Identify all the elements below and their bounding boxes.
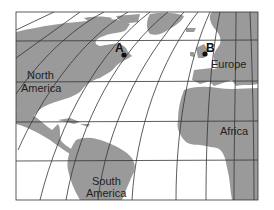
point-b-label: B xyxy=(206,41,215,55)
north-america-label-1: North xyxy=(27,69,54,81)
south-america-label-2: America xyxy=(86,187,127,199)
north-america-label-2: America xyxy=(21,82,62,94)
south-america-label-1: South xyxy=(92,175,121,187)
point-a-label: A xyxy=(115,41,124,55)
world-map: A B North America Europe Africa South Am… xyxy=(0,0,274,210)
africa-label: Africa xyxy=(220,125,249,137)
europe-label: Europe xyxy=(211,58,246,70)
